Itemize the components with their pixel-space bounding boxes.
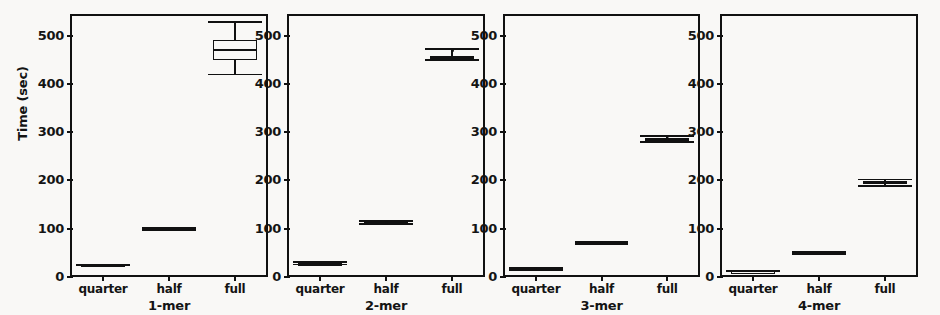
median-line	[213, 49, 257, 51]
y-tick-mark	[67, 35, 73, 37]
x-tick-label-full: full	[845, 282, 925, 296]
x-tick-mark	[102, 276, 104, 281]
y-tick-label: 500	[235, 28, 281, 43]
y-tick-label: 200	[451, 172, 497, 187]
y-tick-label: 400	[451, 76, 497, 91]
median-line	[81, 264, 125, 266]
y-tick-label: 0	[235, 269, 281, 284]
y-tick-mark	[717, 179, 723, 181]
y-tick-label: 500	[18, 28, 64, 43]
plot-frame	[287, 14, 485, 277]
x-tick-label-full: full	[627, 282, 707, 296]
x-axis-title: 3-mer	[503, 298, 700, 313]
y-tick-label: 500	[451, 28, 497, 43]
y-tick-mark	[67, 179, 73, 181]
boxplot-figure: Time (sec) 0100200300400500quarterhalffu…	[0, 0, 940, 315]
y-tick-label: 300	[668, 124, 714, 139]
y-tick-mark	[500, 83, 506, 85]
x-tick-mark	[884, 276, 886, 281]
x-axis-title: 2-mer	[287, 298, 485, 313]
y-tick-label: 100	[668, 221, 714, 236]
median-line	[147, 228, 191, 230]
y-tick-mark	[284, 276, 290, 278]
y-tick-mark	[284, 35, 290, 37]
x-tick-mark	[818, 276, 820, 281]
median-line	[863, 182, 907, 184]
plot-frame	[503, 14, 700, 277]
flier-point	[385, 221, 388, 224]
y-tick-label: 400	[235, 76, 281, 91]
y-tick-mark	[500, 179, 506, 181]
x-tick-label-full: full	[412, 282, 492, 296]
y-tick-label: 200	[235, 172, 281, 187]
y-tick-mark	[717, 131, 723, 133]
whisker-lower	[234, 60, 236, 74]
y-tick-label: 500	[668, 28, 714, 43]
y-tick-mark	[67, 131, 73, 133]
y-tick-label: 300	[18, 124, 64, 139]
y-tick-label: 0	[18, 269, 64, 284]
y-tick-label: 100	[235, 221, 281, 236]
y-tick-mark	[500, 276, 506, 278]
y-axis-label: Time (sec)	[15, 44, 30, 164]
y-tick-mark	[284, 228, 290, 230]
y-tick-mark	[717, 276, 723, 278]
y-tick-label: 300	[235, 124, 281, 139]
y-tick-mark	[284, 131, 290, 133]
y-tick-label: 400	[18, 76, 64, 91]
x-tick-mark	[535, 276, 537, 281]
y-tick-label: 100	[451, 221, 497, 236]
y-tick-mark	[67, 276, 73, 278]
y-tick-mark	[717, 228, 723, 230]
cap-lower	[858, 185, 912, 187]
cap-upper	[208, 21, 262, 23]
cap-lower	[640, 141, 694, 143]
flier-point	[319, 262, 322, 265]
y-tick-mark	[284, 179, 290, 181]
cap-lower	[208, 74, 262, 76]
y-tick-label: 100	[18, 221, 64, 236]
y-tick-label: 200	[668, 172, 714, 187]
x-tick-mark	[601, 276, 603, 281]
x-tick-mark	[385, 276, 387, 281]
y-tick-label: 0	[668, 269, 714, 284]
y-tick-mark	[717, 83, 723, 85]
cap-lower	[425, 59, 479, 61]
y-tick-label: 0	[451, 269, 497, 284]
y-tick-label: 200	[18, 172, 64, 187]
y-tick-label: 300	[451, 124, 497, 139]
median-line	[430, 57, 474, 59]
y-tick-mark	[500, 131, 506, 133]
x-tick-mark	[319, 276, 321, 281]
flier-point	[451, 49, 454, 52]
y-tick-mark	[500, 228, 506, 230]
y-tick-mark	[284, 83, 290, 85]
median-line	[731, 270, 775, 272]
y-tick-mark	[67, 228, 73, 230]
y-tick-mark	[500, 35, 506, 37]
cap-upper	[858, 179, 912, 181]
y-tick-mark	[67, 83, 73, 85]
x-tick-mark	[752, 276, 754, 281]
x-axis-title: 4-mer	[720, 298, 918, 313]
plot-frame	[720, 14, 918, 277]
median-line	[797, 252, 841, 254]
x-tick-label-full: full	[195, 282, 275, 296]
x-tick-mark	[168, 276, 170, 281]
x-axis-title: 1-mer	[70, 298, 268, 313]
y-tick-mark	[717, 35, 723, 37]
y-tick-label: 400	[668, 76, 714, 91]
